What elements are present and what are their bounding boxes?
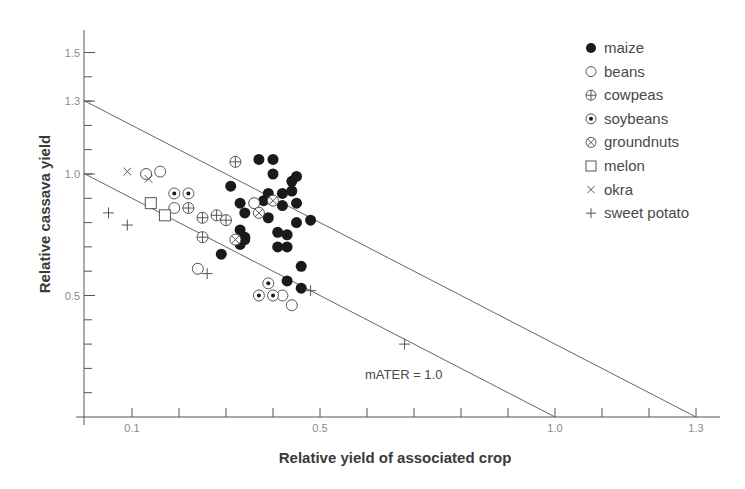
- filled-circle-marker-icon: [216, 249, 227, 260]
- circle-plus-marker-icon: [197, 232, 208, 243]
- circle-dot-marker-icon: [268, 290, 279, 301]
- series-sweet-potato: [103, 207, 410, 349]
- y-tick-label: 0.5: [65, 290, 80, 302]
- filled-circle-marker-icon: [225, 181, 236, 192]
- legend-item-melon: melon: [586, 157, 645, 174]
- filled-circle-marker-icon: [235, 198, 246, 209]
- legend-label: sweet potato: [604, 204, 689, 221]
- circle-plus-marker-icon: [183, 203, 194, 214]
- filled-circle-marker-icon: [291, 217, 302, 228]
- legend-item-beans: beans: [586, 63, 645, 80]
- filled-circle-marker-icon: [282, 229, 293, 240]
- legend-label: beans: [604, 63, 645, 80]
- scatter-chart: 0.10.51.01.30.51.01.31.5 maizebeanscowpe…: [0, 0, 745, 489]
- reference-line: [85, 174, 555, 417]
- circle-plus-marker-icon: [221, 215, 232, 226]
- circle-plus-marker-icon: [197, 212, 208, 223]
- x-tick-label: 1.3: [688, 422, 703, 434]
- plus-marker-icon: [305, 285, 316, 296]
- circle-x-marker-icon: [230, 234, 241, 245]
- filled-circle-marker-icon: [268, 154, 279, 165]
- legend: maizebeanscowpeassoybeansgroundnutsmelon…: [586, 39, 689, 221]
- open-circle-marker-icon: [155, 166, 166, 177]
- y-tick-label: 1.0: [65, 168, 80, 180]
- filled-circle-marker-icon: [272, 227, 283, 238]
- legend-label: maize: [604, 39, 644, 56]
- circle-x-marker-icon: [268, 195, 279, 206]
- filled-circle-marker-icon: [296, 283, 307, 294]
- legend-item-sweet-potato: sweet potato: [586, 204, 689, 221]
- plus-marker-icon: [586, 208, 596, 218]
- circle-dot-marker-icon: [183, 188, 194, 199]
- circle-plus-marker-icon: [586, 90, 596, 100]
- legend-label: soybeans: [604, 110, 668, 127]
- filled-circle-marker-icon: [277, 188, 288, 199]
- x-marker-icon: [588, 186, 595, 193]
- x-marker-icon: [123, 168, 131, 176]
- open-square-marker-icon: [159, 210, 170, 221]
- series-melon: [145, 198, 170, 221]
- legend-label: groundnuts: [604, 133, 679, 150]
- circle-dot-marker-icon: [169, 188, 180, 199]
- plus-marker-icon: [103, 207, 114, 218]
- open-circle-marker-icon: [192, 263, 203, 274]
- plus-marker-icon: [122, 220, 133, 231]
- x-tick-label: 0.1: [124, 422, 139, 434]
- open-square-marker-icon: [145, 198, 156, 209]
- filled-circle-marker-icon: [272, 241, 283, 252]
- legend-label: okra: [604, 181, 634, 198]
- filled-circle-marker-icon: [291, 171, 302, 182]
- circle-plus-marker-icon: [230, 156, 241, 167]
- y-tick-label: 1.3: [65, 95, 80, 107]
- filled-circle-marker-icon: [268, 169, 279, 180]
- x-tick-label: 1.0: [547, 422, 562, 434]
- legend-label: melon: [604, 157, 645, 174]
- filled-circle-marker-icon: [239, 207, 250, 218]
- mater-annotation: mATER = 1.0: [365, 367, 442, 382]
- series-beans: [141, 166, 298, 311]
- x-axis-title: Relative yield of associated crop: [279, 449, 512, 466]
- y-tick-label: 1.5: [65, 47, 80, 59]
- data-points: [103, 154, 410, 350]
- legend-label: cowpeas: [604, 86, 663, 103]
- circle-x-marker-icon: [253, 207, 264, 218]
- circle-dot-marker-icon: [253, 290, 264, 301]
- filled-circle-marker-icon: [253, 154, 264, 165]
- open-circle-marker-icon: [586, 67, 596, 77]
- series-cowpeas: [183, 156, 241, 242]
- legend-item-groundnuts: groundnuts: [586, 133, 679, 150]
- circle-x-marker-icon: [586, 137, 596, 147]
- filled-circle-marker-icon: [305, 215, 316, 226]
- x-tick-label: 0.5: [312, 422, 327, 434]
- plus-marker-icon: [399, 339, 410, 350]
- filled-circle-marker-icon: [286, 186, 297, 197]
- open-circle-marker-icon: [286, 300, 297, 311]
- legend-item-soybeans: soybeans: [586, 110, 668, 127]
- circle-dot-marker-icon: [586, 114, 596, 124]
- legend-item-okra: okra: [588, 181, 634, 198]
- filled-circle-marker-icon: [282, 275, 293, 286]
- legend-item-maize: maize: [586, 39, 644, 56]
- legend-item-cowpeas: cowpeas: [586, 86, 663, 103]
- circle-dot-marker-icon: [263, 278, 274, 289]
- filled-circle-marker-icon: [296, 261, 307, 272]
- y-axis-title: Relative cassava yield: [36, 135, 53, 293]
- filled-circle-marker-icon: [291, 198, 302, 209]
- filled-circle-marker-icon: [282, 241, 293, 252]
- open-square-marker-icon: [586, 161, 596, 171]
- filled-circle-marker-icon: [586, 43, 596, 53]
- series-maize: [216, 154, 316, 294]
